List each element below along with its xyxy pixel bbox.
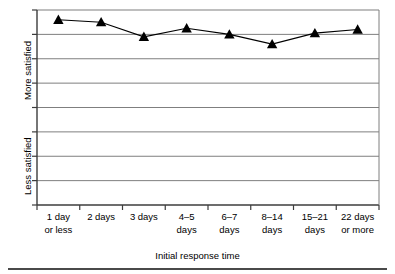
x-tick-line1: 22 days: [341, 211, 374, 222]
x-axis-tick-label: 8–14days: [251, 211, 294, 247]
x-tick-line1: 1 day: [47, 211, 70, 222]
data-point-marker: [53, 15, 63, 24]
x-tick-line1: 4–5: [179, 211, 195, 222]
x-tick-line1: 2 days: [87, 211, 115, 222]
x-axis-tick-label: 22 daysor more: [336, 211, 379, 247]
x-tick-line2: or less: [37, 224, 80, 237]
x-tick-line1: 8–14: [262, 211, 283, 222]
chart-figure: More satisfied Less satisfied 1 dayor le…: [0, 0, 395, 274]
x-axis-tick-label: 6–7days: [208, 211, 251, 247]
data-point-marker: [181, 23, 191, 32]
x-axis-tick-label: 1 dayor less: [37, 211, 80, 247]
x-tick-line2: or more: [336, 224, 379, 237]
x-tick-line1: 15–21: [302, 211, 328, 222]
gridlines: [37, 10, 379, 181]
x-tick-line1: 3 days: [130, 211, 158, 222]
x-axis-title: Initial response time: [0, 250, 395, 261]
x-axis-tick-label: 3 days: [123, 211, 166, 247]
x-axis-tick-label: 2 days: [80, 211, 123, 247]
data-point-marker: [352, 24, 362, 33]
x-axis-tick-label: 15–21days: [294, 211, 337, 247]
x-tick-line1: 6–7: [221, 211, 237, 222]
bottom-rule: [8, 268, 387, 270]
y-axis-ticks: [32, 10, 37, 205]
x-tick-line2: days: [294, 224, 337, 237]
x-tick-line2: days: [251, 224, 294, 237]
x-axis-tick-marks: [37, 205, 379, 210]
x-axis-tick-labels: 1 dayor less2 days3 days4–5days6–7days8–…: [37, 211, 379, 247]
x-tick-line2: days: [165, 224, 208, 237]
x-axis-tick-label: 4–5days: [165, 211, 208, 247]
x-tick-line2: days: [208, 224, 251, 237]
